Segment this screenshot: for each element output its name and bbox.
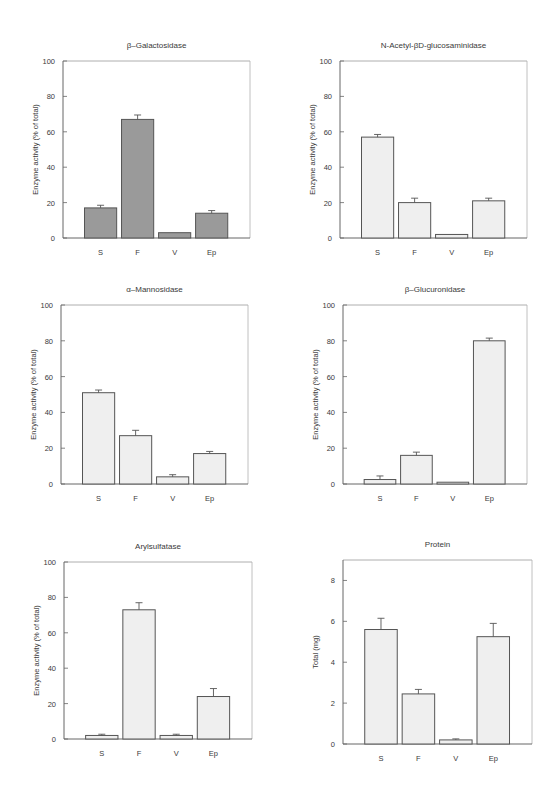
bar-f	[401, 455, 433, 484]
x-tick-label: Ep	[205, 494, 214, 503]
y-tick-label: 0	[331, 480, 335, 489]
x-tick-label: F	[137, 749, 142, 758]
y-tick-label: 80	[47, 92, 55, 101]
chart-title: β–Glucuronidase	[405, 285, 466, 294]
bar-s	[365, 630, 398, 744]
bar-f	[399, 203, 431, 238]
x-tick-label: V	[170, 494, 175, 503]
x-tick-label: S	[375, 248, 380, 257]
y-tick-label: 100	[40, 301, 53, 310]
bar-f	[120, 436, 152, 484]
y-tick-label: 0	[51, 234, 55, 243]
x-tick-label: V	[450, 494, 455, 503]
bar-ep	[473, 201, 505, 238]
y-tick-label: 100	[42, 57, 55, 66]
bar-ep	[196, 213, 228, 238]
y-tick-label: 0	[52, 735, 56, 744]
x-tick-label: F	[414, 494, 419, 503]
chart-n-acetyl-glucosaminidase: N-Acetyl-βD-glucosaminidase020406080100E…	[279, 0, 559, 268]
bar-ep	[197, 697, 229, 739]
chart-title: α–Mannosidase	[126, 285, 183, 294]
y-tick-label: 0	[49, 480, 53, 489]
y-tick-label: 40	[45, 408, 53, 417]
y-tick-label: 20	[324, 199, 332, 208]
y-tick-label: 20	[45, 444, 53, 453]
y-tick-label: 40	[48, 664, 56, 673]
x-tick-label: Ep	[207, 248, 216, 257]
chart-title: N-Acetyl-βD-glucosaminidase	[381, 41, 487, 50]
x-tick-label: V	[174, 749, 179, 758]
y-tick-label: 0	[328, 234, 332, 243]
y-tick-label: 0	[331, 740, 335, 749]
bar-v	[437, 482, 469, 484]
y-tick-label: 20	[47, 199, 55, 208]
y-tick-label: 60	[47, 128, 55, 137]
bar-v	[160, 735, 192, 739]
y-tick-label: 80	[327, 337, 335, 346]
bar-v	[159, 233, 191, 238]
chart-alpha-mannosidase: α–Mannosidase020406080100Enzyme activity…	[0, 268, 279, 518]
chart-beta-galactosidase: β–Galactosidase020406080100Enzyme activi…	[0, 0, 279, 268]
x-tick-label: S	[98, 248, 103, 257]
y-axis-label: Enzyme activity (% of total)	[311, 349, 320, 440]
chart-title: Arylsulfatase	[135, 542, 181, 551]
bar-f	[122, 119, 154, 238]
y-tick-label: 100	[322, 301, 335, 310]
x-tick-label: S	[378, 754, 383, 763]
x-tick-label: V	[449, 248, 454, 257]
y-tick-label: 8	[331, 576, 335, 585]
x-tick-label: S	[99, 749, 104, 758]
x-tick-label: Ep	[209, 749, 218, 758]
bar-v	[436, 234, 468, 238]
y-tick-label: 20	[327, 444, 335, 453]
bar-s	[362, 137, 394, 238]
bar-f	[402, 694, 435, 744]
y-tick-label: 80	[45, 337, 53, 346]
bar-v	[157, 477, 189, 484]
x-tick-label: Ep	[489, 754, 498, 763]
y-tick-label: 80	[48, 593, 56, 602]
bar-ep	[473, 341, 505, 484]
chart-title: β–Galactosidase	[127, 41, 187, 50]
y-tick-label: 60	[48, 629, 56, 638]
y-tick-label: 60	[45, 373, 53, 382]
x-tick-label: F	[135, 248, 140, 257]
bar-ep	[194, 454, 226, 484]
bar-s	[364, 480, 396, 484]
chart-beta-glucuronidase: β–Glucuronidase020406080100Enzyme activi…	[279, 268, 559, 518]
bar-s	[83, 393, 115, 484]
y-tick-label: 6	[331, 617, 335, 626]
y-axis-label: Enzyme activity (% of total)	[31, 104, 40, 195]
x-tick-label: F	[416, 754, 421, 763]
y-tick-label: 40	[324, 163, 332, 172]
chart-arylsulfatase: Arylsulfatase020406080100Enzyme activity…	[0, 518, 279, 805]
bar-ep	[477, 637, 510, 744]
x-tick-label: V	[172, 248, 177, 257]
y-tick-label: 60	[327, 373, 335, 382]
x-tick-label: S	[96, 494, 101, 503]
x-tick-label: F	[133, 494, 138, 503]
y-tick-label: 20	[48, 700, 56, 709]
y-axis-label: Total (mg)	[311, 635, 320, 669]
y-axis-label: Enzyme activity (% of total)	[32, 605, 41, 696]
y-tick-label: 100	[43, 558, 56, 567]
y-tick-label: 60	[324, 128, 332, 137]
x-tick-label: Ep	[484, 248, 493, 257]
x-tick-label: Ep	[485, 494, 494, 503]
bar-f	[123, 610, 155, 739]
bar-s	[85, 208, 117, 238]
y-tick-label: 2	[331, 699, 335, 708]
bar-v	[440, 740, 473, 744]
y-tick-label: 40	[327, 408, 335, 417]
y-axis-label: Enzyme activity (% of total)	[308, 104, 317, 195]
chart-title: Protein	[425, 540, 450, 549]
chart-protein: Protein02468Total (mg)SFVEp	[279, 518, 559, 805]
y-tick-label: 40	[47, 163, 55, 172]
y-axis-label: Enzyme activity (% of total)	[29, 349, 38, 440]
x-tick-label: F	[412, 248, 417, 257]
y-tick-label: 100	[319, 57, 332, 66]
x-tick-label: S	[377, 494, 382, 503]
x-tick-label: V	[453, 754, 458, 763]
y-tick-label: 80	[324, 92, 332, 101]
y-tick-label: 4	[331, 658, 335, 667]
